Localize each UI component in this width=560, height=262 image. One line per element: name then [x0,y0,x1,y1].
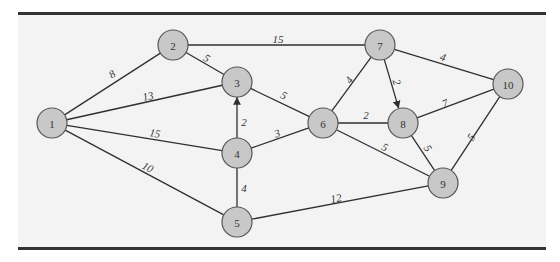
edge-3-6 [251,88,310,116]
node-label: 9 [440,178,446,190]
node-label: 10 [503,79,515,91]
edge-weight-label: 10 [140,159,156,175]
edge-weight-label: 4 [439,50,448,63]
node-label: 3 [234,77,240,89]
edge-9-10 [451,97,500,171]
node-label: 5 [234,217,240,229]
node-label: 8 [400,118,406,130]
edge-weight-label: 8 [106,67,118,80]
node-label: 6 [320,118,326,130]
edge-weight-label: 3 [271,126,282,140]
edge-weight-label: 2 [390,78,403,87]
node-3: 3 [222,67,252,97]
node-label: 7 [377,40,383,52]
edge-weight-label: 15 [273,33,285,45]
edge-weight-label: 4 [241,182,247,194]
edge-weight-label: 2 [241,116,247,128]
node-4: 4 [222,138,252,168]
edge-weight-label: 7 [440,96,450,109]
edge-8-9 [411,135,434,170]
edge-weight-label: 12 [329,191,343,205]
edge-weight-label: 2 [363,109,369,121]
node-label: 1 [49,118,55,130]
edge-weight-label: 5 [380,140,391,153]
edge-weight-label: 13 [141,89,155,103]
node-9: 9 [428,168,458,198]
edge-weight-label: 15 [149,126,162,140]
node-7: 7 [365,30,395,60]
node-8: 8 [388,108,418,138]
edge-labels-layer: 813151051525341242524755 [106,33,477,205]
edge-weight-label: 5 [279,88,290,101]
edge-weight-label: 5 [421,142,434,154]
network-graph: 813151051525341242524755 12345678910 [0,0,560,262]
node-1: 1 [37,108,67,138]
edge-8-10 [417,89,494,118]
node-2: 2 [158,30,188,60]
edge-1-4 [67,125,222,150]
node-6: 6 [308,108,338,138]
node-label: 2 [170,40,176,52]
edge-1-5 [65,130,224,215]
node-10: 10 [493,69,523,99]
edge-6-9 [336,130,429,177]
node-5: 5 [222,207,252,237]
node-label: 4 [234,148,240,160]
edge-1-2 [65,53,161,115]
